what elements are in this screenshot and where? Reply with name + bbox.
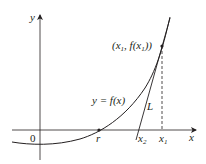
newton-method-diagram: y x 0 r x2 x1 L y = f(x) (x1, f(x1))	[0, 0, 206, 164]
tangent-line	[136, 18, 170, 140]
tangent-point-label: (x1, f(x1))	[112, 39, 152, 53]
root-label: r	[96, 132, 101, 144]
x2-label: x2	[137, 132, 147, 146]
curve-label: y = f(x)	[91, 94, 125, 107]
curve-f	[12, 17, 170, 144]
x1-label: x1	[158, 132, 167, 146]
y-axis-label: y	[29, 11, 35, 23]
x-axis-label: x	[188, 131, 194, 143]
tangent-point	[160, 44, 163, 47]
tangent-line-label: L	[146, 100, 153, 112]
origin-label: 0	[30, 132, 36, 144]
